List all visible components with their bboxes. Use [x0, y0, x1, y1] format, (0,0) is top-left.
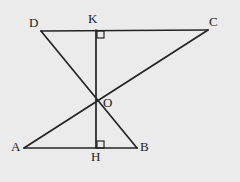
- vertex-label-b: B: [140, 140, 149, 153]
- right-angle-marks-group: [97, 31, 104, 148]
- vertex-label-c: C: [209, 15, 218, 28]
- vertex-label-d: D: [29, 16, 38, 29]
- vertex-label-a: A: [11, 140, 20, 153]
- vertex-label-k: K: [88, 12, 97, 25]
- vertex-label-h: H: [91, 150, 100, 163]
- segment-DC: [41, 30, 208, 31]
- geometry-figure: D K C O A H B: [0, 0, 240, 182]
- right-angle-at-H: [97, 141, 104, 148]
- right-angle-at-K: [97, 31, 104, 38]
- segment-DB: [41, 31, 137, 148]
- segments-group: [24, 30, 208, 148]
- vertex-label-o: O: [103, 96, 112, 109]
- segment-AC: [24, 30, 208, 148]
